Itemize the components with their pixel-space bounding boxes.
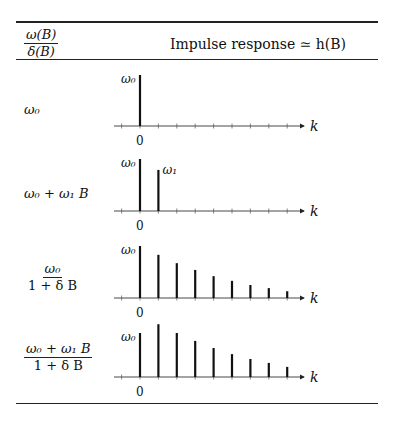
impulse-response-plots: k0ω₀k0ω₀ω₁k0ω₀k0ω₀	[0, 0, 395, 421]
origin-label: 0	[136, 134, 144, 148]
origin-label: 0	[136, 219, 144, 233]
omega0-label: ω₀	[121, 243, 136, 257]
k-axis-label: k	[310, 118, 318, 134]
omega0-label: ω₀	[121, 330, 136, 344]
origin-label: 0	[136, 385, 144, 399]
stem-plot-2: k0ω₀ω₁	[114, 156, 318, 233]
stem-plot-1: k0ω₀	[114, 72, 318, 148]
k-axis-label: k	[310, 369, 318, 385]
k-axis-label: k	[310, 203, 318, 219]
table-bottom-rule	[16, 403, 378, 404]
stem-plot-3: k0ω₀	[114, 243, 318, 320]
omega1-label: ω₁	[162, 163, 177, 177]
omega0-label: ω₀	[121, 156, 136, 170]
stem-plot-4: k0ω₀	[114, 324, 318, 399]
origin-label: 0	[136, 306, 144, 320]
omega0-label: ω₀	[121, 72, 136, 86]
k-axis-label: k	[310, 290, 318, 306]
